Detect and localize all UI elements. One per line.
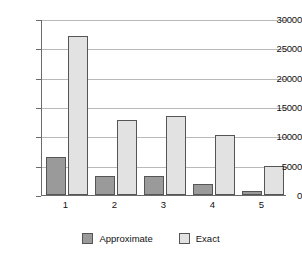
y-axis-tick-mark (36, 167, 41, 168)
bar-exact-1 (68, 36, 88, 195)
y-axis-tick-mark (36, 108, 41, 109)
y-axis-tick-mark (36, 79, 41, 80)
y-axis-tick-label: 25000 (262, 44, 302, 54)
y-axis-tick-label: 15000 (262, 103, 302, 113)
y-axis-tick-mark (36, 196, 41, 197)
chart-legend: ApproximateExact (0, 233, 302, 244)
bar-approximate-2 (95, 176, 115, 195)
x-axis-tick-label: 1 (46, 199, 86, 210)
bar-exact-2 (117, 120, 137, 195)
gridline (42, 20, 287, 21)
bar-chart: 050001000015000200002500030000 12345 App… (0, 0, 302, 265)
bar-exact-3 (166, 116, 186, 195)
bar-approximate-3 (144, 176, 164, 195)
y-axis-tick-label: 20000 (262, 74, 302, 84)
y-axis-tick-label: 10000 (262, 132, 302, 142)
x-axis-tick-label: 2 (95, 199, 135, 210)
legend-item-label: Approximate (99, 233, 152, 244)
bar-approximate-1 (46, 157, 66, 195)
x-axis-tick-label: 4 (193, 199, 233, 210)
legend-swatch-icon (82, 233, 93, 244)
bar-exact-4 (215, 135, 235, 195)
y-axis-tick-mark (36, 49, 41, 50)
bar-approximate-4 (193, 184, 213, 195)
legend-swatch-icon (179, 233, 190, 244)
legend-item-label: Exact (196, 233, 220, 244)
y-axis-tick-label: 30000 (262, 15, 302, 25)
x-axis-tick-label: 3 (144, 199, 184, 210)
plot-area (41, 20, 286, 196)
x-axis-tick-label: 5 (242, 199, 282, 210)
y-axis-tick-mark (36, 137, 41, 138)
y-axis-tick-label: 5000 (262, 162, 302, 172)
legend-item-approximate[interactable]: Approximate (82, 233, 152, 244)
bar-approximate-5 (242, 191, 262, 195)
legend-item-exact[interactable]: Exact (179, 233, 220, 244)
y-axis-tick-mark (36, 20, 41, 21)
